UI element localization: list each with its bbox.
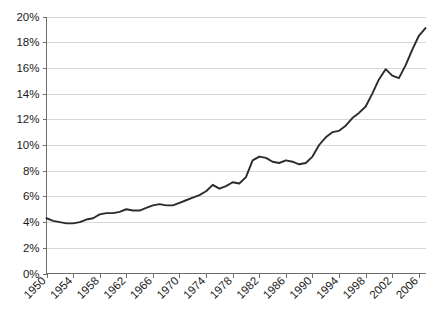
line-chart: 0%2%4%6%8%10%12%14%16%18%20% 19501954195… [0,0,434,329]
x-tick-label: 1982 [234,274,261,301]
x-tick-label: 1986 [261,274,288,301]
data-line-value [47,28,426,223]
data-series-group [47,28,426,223]
y-tick-label: 8% [23,165,40,177]
x-tick-label: 1962 [101,274,128,301]
x-tick-label: 1958 [75,274,102,301]
y-tick-label: 16% [16,62,39,74]
y-tick-labels: 0%2%4%6%8%10%12%14%16%18%20% [16,11,39,280]
x-tick-label: 1970 [154,274,181,301]
x-tick-label: 1994 [314,274,341,301]
y-tick-label: 4% [23,216,40,228]
y-tick-label: 10% [16,139,39,151]
x-tick-label: 1998 [340,274,367,301]
x-tick-label: 1966 [128,274,155,301]
x-tick-label: 1978 [208,274,235,301]
x-tick-label: 2006 [394,274,421,301]
x-tick-labels: 1950195419581962196619701974197819821986… [21,274,420,301]
y-tick-label: 12% [16,113,39,125]
y-tick-label: 20% [16,11,39,23]
x-axis [47,274,426,278]
y-tick-label: 14% [16,88,39,100]
x-tick-label: 2002 [367,274,394,301]
x-tick-label: 1954 [48,274,75,301]
y-tick-label: 6% [23,190,40,202]
y-tick-label: 2% [23,242,40,254]
y-axis [43,17,47,275]
x-tick-label: 1974 [181,274,208,301]
x-tick-label: 1990 [287,274,314,301]
chart-canvas: 0%2%4%6%8%10%12%14%16%18%20% 19501954195… [0,0,434,329]
y-tick-label: 18% [16,36,39,48]
